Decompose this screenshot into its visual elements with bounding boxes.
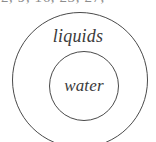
clipped-number-list: 2, 9, 16, 23, 27, (0, 0, 156, 7)
inner-set-label-water: water (49, 76, 119, 96)
outer-set-label-liquids: liquids (0, 26, 156, 47)
clipped-number-list-text: 2, 9, 16, 23, 27, (1, 0, 156, 6)
euler-diagram-figure: 2, 9, 16, 23, 27, liquids water (0, 0, 156, 142)
